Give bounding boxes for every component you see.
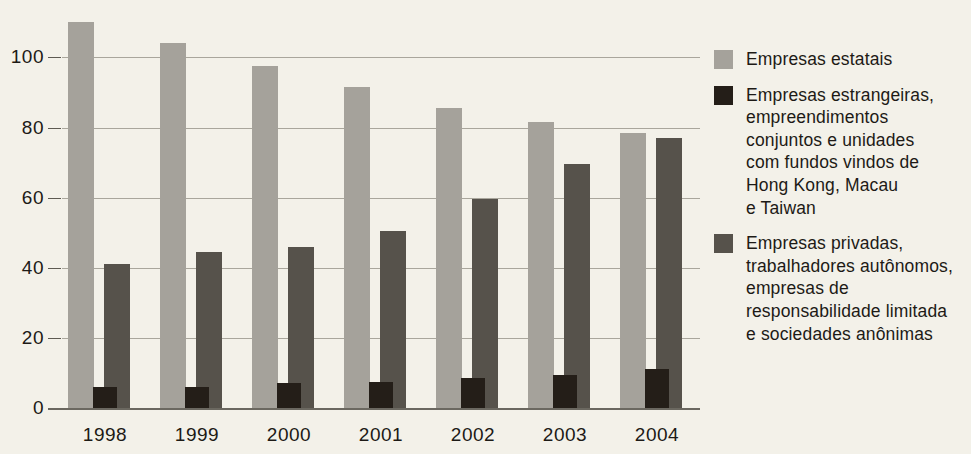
y-tick-label-100: 100 <box>0 46 44 68</box>
x-axis-label-2002: 2002 <box>428 424 518 446</box>
bar-group-2001 <box>344 24 414 408</box>
y-tick-label-80: 80 <box>0 117 44 139</box>
x-axis-baseline <box>48 408 700 410</box>
x-axis-label-1998: 1998 <box>60 424 150 446</box>
legend-label-2: Empresas estrangeiras, empreendimentos c… <box>746 84 934 220</box>
y-tick-mark-60 <box>48 198 61 199</box>
bar-privadas-2003 <box>564 164 590 408</box>
y-tick-mark-20 <box>48 338 61 339</box>
x-axis-label-2003: 2003 <box>520 424 610 446</box>
legend-swatch-estatais <box>714 50 733 69</box>
bar-estrangeiras-2003 <box>553 375 577 408</box>
bar-estrangeiras-1998 <box>93 387 117 408</box>
y-tick-mark-100 <box>48 57 61 58</box>
bar-group-2000 <box>252 24 322 408</box>
bar-estatais-2002 <box>436 108 462 408</box>
y-tick-label-40: 40 <box>0 257 44 279</box>
x-axis-label-1999: 1999 <box>152 424 242 446</box>
bar-estatais-1998 <box>68 22 94 408</box>
legend-swatch-privadas <box>714 234 733 253</box>
bar-estatais-2001 <box>344 87 370 408</box>
legend-item-3: Empresas privadas, trabalhadores autônom… <box>714 232 964 345</box>
x-axis-label-2004: 2004 <box>612 424 702 446</box>
bar-privadas-1999 <box>196 252 222 408</box>
chart-legend: Empresas estataisEmpresas estrangeiras, … <box>714 48 964 358</box>
bar-group-2002 <box>436 24 506 408</box>
legend-item-2: Empresas estrangeiras, empreendimentos c… <box>714 84 964 220</box>
y-tick-mark-40 <box>48 268 61 269</box>
bar-group-1998 <box>68 24 138 408</box>
bar-estatais-2000 <box>252 66 278 408</box>
bar-chart-plot-area: 020406080100 199819992000200120022003200… <box>0 0 700 454</box>
x-axis-label-2000: 2000 <box>244 424 334 446</box>
bar-privadas-2002 <box>472 199 498 408</box>
bar-estatais-2004 <box>620 133 646 408</box>
bar-estrangeiras-1999 <box>185 387 209 408</box>
legend-swatch-estrangeiras <box>714 86 733 105</box>
chart-page: 020406080100 199819992000200120022003200… <box>0 0 971 454</box>
bar-estrangeiras-2004 <box>645 369 669 408</box>
bar-estrangeiras-2000 <box>277 383 301 408</box>
bar-group-2004 <box>620 24 690 408</box>
bar-estatais-2003 <box>528 122 554 408</box>
legend-item-1: Empresas estatais <box>714 48 964 71</box>
y-tick-label-20: 20 <box>0 327 44 349</box>
bar-group-2003 <box>528 24 598 408</box>
bar-estatais-1999 <box>160 43 186 408</box>
bar-estrangeiras-2002 <box>461 378 485 408</box>
legend-label-3: Empresas privadas, trabalhadores autônom… <box>746 232 953 345</box>
bar-privadas-2004 <box>656 138 682 408</box>
y-tick-label-0: 0 <box>0 397 44 419</box>
legend-label-1: Empresas estatais <box>746 48 893 71</box>
bar-group-1999 <box>160 24 230 408</box>
y-tick-label-60: 60 <box>0 187 44 209</box>
bar-estrangeiras-2001 <box>369 382 393 408</box>
x-axis-label-2001: 2001 <box>336 424 426 446</box>
y-tick-mark-80 <box>48 128 61 129</box>
